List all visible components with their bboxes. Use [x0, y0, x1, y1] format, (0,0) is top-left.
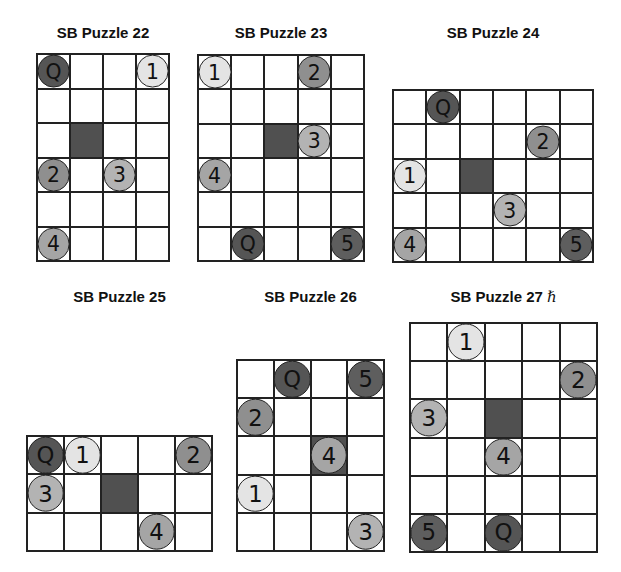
board-cell[interactable] — [460, 124, 493, 158]
board-cell[interactable] — [264, 192, 297, 226]
board-cell[interactable] — [103, 192, 136, 227]
board-cell[interactable] — [198, 192, 231, 226]
numbered-piece[interactable]: 1 — [136, 55, 169, 88]
board-cell[interactable] — [560, 90, 593, 124]
board-cell[interactable] — [460, 193, 493, 227]
board-cell[interactable]: 2 — [560, 361, 597, 399]
board-cell[interactable] — [311, 398, 348, 436]
board-cell[interactable] — [426, 124, 459, 158]
numbered-piece[interactable]: 2 — [298, 56, 331, 89]
board-cell[interactable] — [522, 514, 559, 552]
board-cell[interactable] — [264, 227, 297, 261]
board-cell[interactable]: Q — [485, 514, 522, 552]
board-cell[interactable] — [393, 124, 426, 158]
board-cell[interactable] — [331, 192, 364, 226]
queen-piece[interactable]: Q — [426, 91, 459, 124]
board-cell[interactable] — [136, 227, 169, 262]
board-cell[interactable] — [37, 123, 70, 158]
queen-piece[interactable]: Q — [274, 361, 311, 398]
board-cell[interactable] — [237, 436, 274, 474]
board-cell[interactable]: 5 — [410, 514, 447, 552]
board-cell[interactable]: 2 — [526, 124, 559, 158]
board-cell[interactable]: 3 — [298, 124, 331, 158]
board-cell[interactable] — [526, 90, 559, 124]
board-cell[interactable] — [298, 192, 331, 226]
numbered-piece[interactable]: 3 — [27, 475, 64, 512]
board-cell[interactable] — [27, 513, 64, 551]
board-cell[interactable] — [237, 513, 274, 551]
board-cell[interactable] — [426, 193, 459, 227]
board-cell[interactable] — [485, 361, 522, 399]
numbered-piece[interactable]: 4 — [393, 228, 426, 261]
board-cell[interactable]: 3 — [103, 158, 136, 193]
board-cell[interactable] — [493, 124, 526, 158]
board-cell[interactable]: 4 — [393, 228, 426, 262]
board-cell[interactable] — [64, 474, 101, 512]
board-cell[interactable] — [522, 438, 559, 476]
board-cell[interactable]: 1 — [393, 159, 426, 193]
board-cell[interactable] — [331, 89, 364, 123]
board-cell[interactable]: 1 — [447, 323, 484, 361]
numbered-piece[interactable]: 1 — [393, 159, 426, 192]
board-cell[interactable] — [493, 159, 526, 193]
board-cell[interactable]: 2 — [298, 55, 331, 89]
blocked-cell[interactable] — [460, 159, 493, 193]
board-cell[interactable] — [37, 192, 70, 227]
board-cell[interactable] — [426, 228, 459, 262]
board-cell[interactable] — [274, 513, 311, 551]
board-cell[interactable] — [526, 228, 559, 262]
board-cell[interactable]: Q — [27, 436, 64, 474]
board-cell[interactable] — [136, 192, 169, 227]
board-cell[interactable] — [311, 360, 348, 398]
board-cell[interactable] — [237, 360, 274, 398]
numbered-piece[interactable]: 2 — [237, 399, 274, 436]
board-cell[interactable] — [560, 323, 597, 361]
board-cell[interactable] — [331, 124, 364, 158]
board-cell[interactable] — [101, 436, 138, 474]
board-cell[interactable]: 2 — [237, 398, 274, 436]
numbered-piece[interactable]: 1 — [237, 475, 274, 512]
board-cell[interactable] — [522, 476, 559, 514]
board-cell[interactable] — [560, 399, 597, 437]
board-cell[interactable] — [70, 192, 103, 227]
board-cell[interactable] — [264, 158, 297, 192]
board-cell[interactable] — [393, 193, 426, 227]
queen-piece[interactable]: Q — [27, 437, 64, 474]
board-cell[interactable] — [447, 438, 484, 476]
board-cell[interactable] — [70, 54, 103, 89]
board-cell[interactable] — [103, 89, 136, 124]
queen-piece[interactable]: Q — [37, 55, 70, 88]
board-cell[interactable] — [136, 123, 169, 158]
board-cell[interactable] — [231, 158, 264, 192]
numbered-piece[interactable]: 5 — [347, 361, 384, 398]
board-cell[interactable]: 1 — [136, 54, 169, 89]
blocked-cell[interactable] — [264, 124, 297, 158]
numbered-piece[interactable]: 4 — [37, 227, 70, 260]
board-cell[interactable]: Q — [231, 227, 264, 261]
board-cell[interactable] — [264, 55, 297, 89]
board-cell[interactable] — [410, 361, 447, 399]
numbered-piece[interactable]: 2 — [560, 362, 597, 399]
board-cell[interactable] — [37, 89, 70, 124]
board-cell[interactable] — [264, 89, 297, 123]
board-cell[interactable] — [311, 513, 348, 551]
board-cell[interactable] — [485, 323, 522, 361]
board-cell[interactable] — [493, 228, 526, 262]
board-cell[interactable] — [522, 323, 559, 361]
board-cell[interactable] — [347, 398, 384, 436]
board-cell[interactable] — [231, 192, 264, 226]
board-cell[interactable]: 4 — [138, 513, 175, 551]
board-cell[interactable] — [560, 193, 593, 227]
board-cell[interactable] — [298, 227, 331, 261]
board-cell[interactable] — [136, 158, 169, 193]
board-cell[interactable]: 1 — [64, 436, 101, 474]
board-cell[interactable] — [393, 90, 426, 124]
board-cell[interactable] — [101, 513, 138, 551]
board-cell[interactable] — [560, 124, 593, 158]
numbered-piece[interactable]: 3 — [410, 400, 447, 437]
board-cell[interactable]: 2 — [37, 158, 70, 193]
board-cell[interactable]: Q — [274, 360, 311, 398]
board-cell[interactable] — [522, 361, 559, 399]
board-cell[interactable]: 1 — [237, 475, 274, 513]
numbered-piece[interactable]: 4 — [198, 159, 231, 192]
